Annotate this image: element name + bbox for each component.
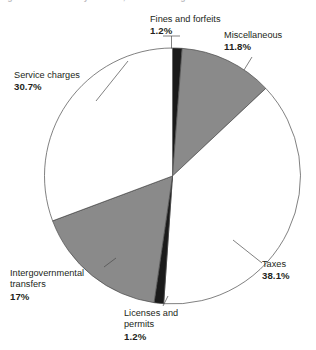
slice-label-intergov-name1: Intergovernmental xyxy=(10,268,84,279)
leader-line-misc xyxy=(244,57,252,70)
slice-label-miscellaneous: Miscellaneous 11.8% xyxy=(224,30,282,53)
slice-label-licenses-name1: Licenses and xyxy=(124,308,178,319)
slice-label-fines-name: Fines and forfeits xyxy=(150,14,220,25)
slice-label-taxes-name: Taxes xyxy=(262,259,290,270)
slice-label-misc-pct: 11.8% xyxy=(224,41,282,52)
slice-label-licenses-and-permits: Licenses and permits 1.2% xyxy=(124,308,178,342)
slice-label-fines-and-forfeits: Fines and forfeits 1.2% xyxy=(150,14,220,37)
slice-label-taxes: Taxes 38.1% xyxy=(262,259,290,282)
slice-label-service-charges: Service charges 30.7% xyxy=(14,70,80,93)
slice-label-licenses-name2: permits xyxy=(124,319,178,330)
slice-label-licenses-pct: 1.2% xyxy=(124,331,178,342)
slice-label-intergov-pct: 17% xyxy=(10,291,84,302)
slice-label-intergovernmental-transfers: Intergovernmental transfers 17% xyxy=(10,268,84,302)
slice-label-service-name: Service charges xyxy=(14,70,80,81)
slice-label-misc-name: Miscellaneous xyxy=(224,30,282,41)
slice-label-service-pct: 30.7% xyxy=(14,81,80,92)
slice-label-taxes-pct: 38.1% xyxy=(262,270,290,281)
slice-label-intergov-name2: transfers xyxy=(10,279,84,290)
slice-label-fines-pct: 1.2% xyxy=(150,25,220,36)
pie-chart: Fines and forfeits 1.2% Miscellaneous 11… xyxy=(0,0,316,350)
